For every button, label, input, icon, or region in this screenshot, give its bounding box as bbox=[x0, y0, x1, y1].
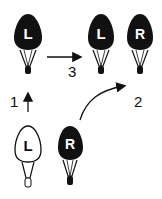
bulb-top-right-R: R bbox=[127, 14, 153, 74]
bulb-top-left-L: L bbox=[14, 14, 42, 74]
step-label-1: 1 bbox=[10, 94, 18, 109]
bulb-letter: L bbox=[23, 25, 32, 42]
bulb-bottom-right-R: R bbox=[58, 126, 83, 185]
bulb-letter: R bbox=[65, 136, 75, 152]
arrow-step-2-icon bbox=[80, 86, 124, 120]
bulb-letter: L bbox=[96, 25, 105, 42]
bulb-top-middle-L: L bbox=[88, 14, 114, 74]
bulb-letter: R bbox=[135, 26, 145, 42]
bulb-letter: L bbox=[23, 137, 32, 154]
step-label-2: 2 bbox=[134, 94, 142, 109]
step-label-3: 3 bbox=[68, 64, 76, 79]
bulb-bottom-left-L: L bbox=[15, 126, 41, 187]
